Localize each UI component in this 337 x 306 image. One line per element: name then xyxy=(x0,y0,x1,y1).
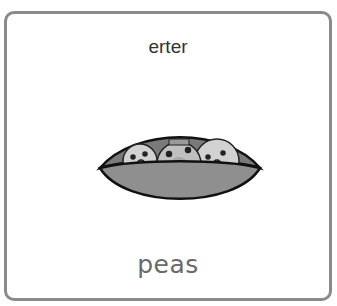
card-label: peas xyxy=(7,250,329,279)
symbol-card[interactable]: erter peas xyxy=(4,11,332,301)
pea-pod-icon xyxy=(95,117,265,213)
card-title: erter xyxy=(7,36,329,58)
